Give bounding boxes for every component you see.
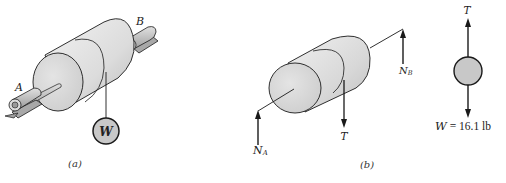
- caption-a: (a): [68, 158, 82, 169]
- support-b-label: B: [135, 15, 144, 28]
- caption-b: (b): [360, 159, 374, 170]
- reaction-b-arrow-icon: [400, 29, 406, 64]
- weight-label: W: [99, 125, 114, 139]
- weight-down-arrow-icon: [465, 85, 471, 118]
- tension-up-arrow-icon: [465, 18, 471, 58]
- support-a-label: A: [14, 81, 23, 94]
- diagram-canvas: W A B (a) NA T: [0, 0, 506, 183]
- reaction-a-label: NA: [252, 144, 268, 157]
- axis-line-back: [370, 29, 403, 48]
- figure-a: W A B (a): [5, 15, 158, 169]
- figure-weight-fbd: T W= 16.1 lb: [435, 4, 491, 133]
- fbd-tension-label: T: [463, 4, 471, 16]
- tension-label: T: [340, 130, 348, 142]
- weight-equation: W= 16.1 lb: [435, 119, 491, 133]
- bearing-a-icon: [5, 88, 42, 118]
- reaction-a-arrow-icon: [255, 110, 261, 145]
- weight-body-icon: [454, 57, 482, 85]
- figure-b: NA T NB (b): [252, 29, 413, 170]
- drum-end-face: [33, 53, 83, 111]
- reaction-b-label: NB: [398, 65, 413, 77]
- drum-end-face-fbd: [269, 63, 321, 113]
